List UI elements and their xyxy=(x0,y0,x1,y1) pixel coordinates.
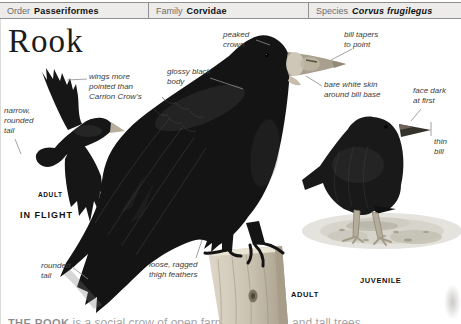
family-value: Corvidae xyxy=(187,6,227,16)
annotation-narrow-tail: narrow, rounded tail xyxy=(4,106,33,136)
taxonomy-header-bar: Order Passeriformes Family Corvidae Spec… xyxy=(0,2,461,19)
label-adult: ADULT xyxy=(291,290,319,299)
annotation-rounded-tail: rounded tail xyxy=(41,261,70,281)
page-edge-line xyxy=(0,19,1,324)
annotation-glossy-body: glossy black body xyxy=(167,67,211,87)
order-cell: Order Passeriformes xyxy=(0,3,148,18)
page-scan-smudge xyxy=(444,284,461,320)
label-adult-in-flight: ADULT xyxy=(38,191,63,198)
field-guide-page: Order Passeriformes Family Corvidae Spec… xyxy=(0,0,461,324)
annotation-peaked-crown: peaked crown xyxy=(223,30,249,50)
annotation-thigh-feathers: loose, ragged thigh feathers xyxy=(149,260,197,280)
annotation-bill-tapers: bill tapers to point xyxy=(344,30,378,50)
species-cell: Species Corvus frugilegus xyxy=(308,3,461,18)
family-label: Family xyxy=(156,6,183,16)
species-label: Species xyxy=(316,6,348,16)
label-juvenile: JUVENILE xyxy=(360,276,401,285)
label-in-flight: IN FLIGHT xyxy=(20,210,73,220)
annotation-bare-skin: bare white skin around bill base xyxy=(324,80,380,100)
annotation-wings-pointed: wings more pointed than Carrion Crow's xyxy=(89,72,142,102)
order-value: Passeriformes xyxy=(34,6,99,16)
family-cell: Family Corvidae xyxy=(148,3,308,18)
wooden-post xyxy=(208,246,288,324)
annotation-thin-bill: thin bill xyxy=(434,137,447,157)
order-label: Order xyxy=(7,6,30,16)
species-value: Corvus frugilegus xyxy=(352,6,432,16)
annotation-face-dark: face dark at first xyxy=(413,86,446,106)
